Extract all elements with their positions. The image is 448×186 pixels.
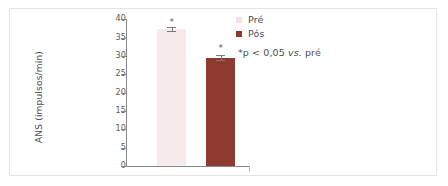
y-tick-mark [121, 111, 126, 112]
y-tick-mark [121, 74, 126, 75]
x-axis-end-tick [249, 166, 250, 171]
error-cap-pos-top [216, 55, 225, 56]
bar-pre [157, 29, 186, 166]
legend-item-pre[interactable]: Pré [236, 14, 396, 26]
chart-figure: 4035302520151050 ANS (impulsos/min) * * … [0, 0, 448, 186]
note-suffix: pré [302, 47, 321, 58]
error-cap-pos-bottom [216, 60, 225, 61]
marker-pre: * [170, 18, 175, 27]
legend-item-pos[interactable]: Pós [236, 28, 396, 40]
y-tick-mark [121, 19, 126, 20]
y-axis-title: ANS (impulsos/min) [34, 27, 44, 167]
y-tick-mark [121, 56, 126, 57]
y-axis-line [126, 19, 127, 167]
y-tick-mark [121, 38, 126, 39]
error-cap-pre-bottom [167, 31, 176, 32]
bar-pos [206, 58, 235, 166]
y-tick-mark [121, 93, 126, 94]
y-tick-mark [121, 148, 126, 149]
note-italic: vs. [288, 47, 302, 58]
error-cap-pre-top [167, 27, 176, 28]
y-tick-mark [121, 129, 126, 130]
legend-label-pos: Pós [248, 29, 264, 39]
legend-swatch-pre-icon [236, 17, 242, 23]
significance-marker-pos: * [219, 44, 224, 53]
y-tick-mark [121, 166, 126, 167]
chart-legend: Pré Pós *p < 0,05 vs. pré [236, 14, 396, 58]
x-axis-line [126, 166, 250, 167]
significance-note: *p < 0,05 vs. pré [238, 47, 396, 58]
legend-swatch-pos-icon [236, 31, 242, 37]
note-prefix: *p < 0,05 [238, 47, 288, 58]
legend-label-pre: Pré [248, 15, 263, 25]
